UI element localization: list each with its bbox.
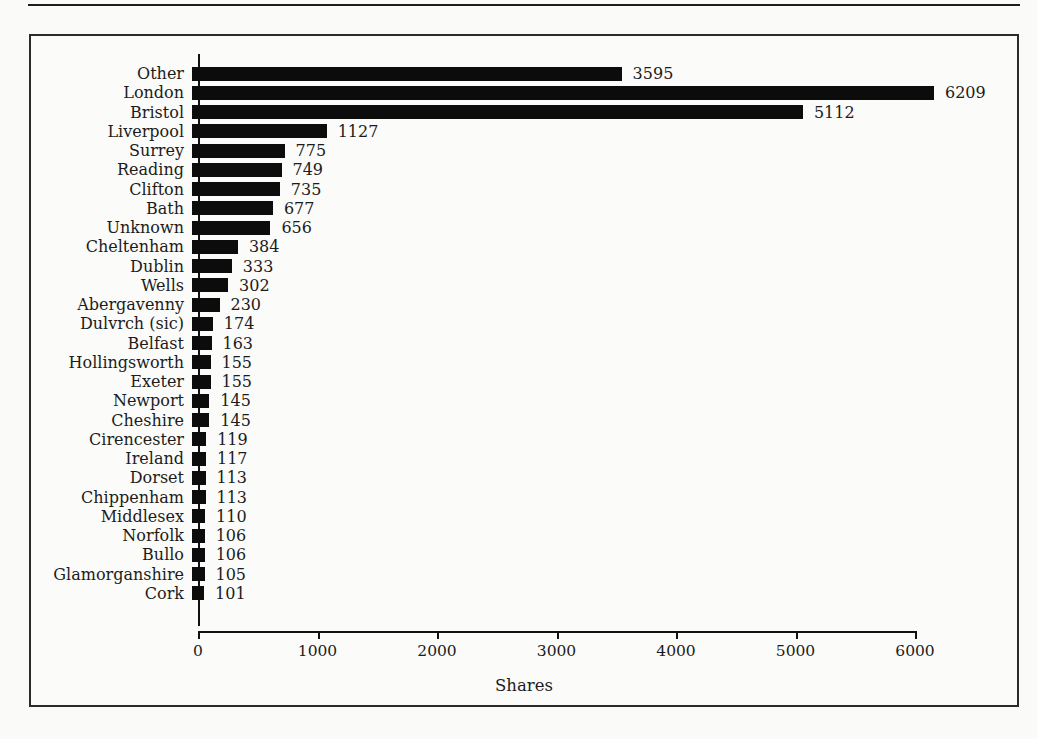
value-label: 101 xyxy=(215,584,246,603)
bar xyxy=(192,105,803,119)
bar xyxy=(192,144,285,158)
category-label: Belfast xyxy=(31,334,192,353)
tick-mark xyxy=(796,631,798,639)
category-label: Dublin xyxy=(31,257,192,276)
category-label: Cheltenham xyxy=(31,237,192,256)
bar-row: Belfast 163 xyxy=(31,334,1017,353)
tick-mark xyxy=(557,631,559,639)
bar xyxy=(192,336,212,350)
bar-row: Newport 145 xyxy=(31,391,1017,410)
bar-row: Cork 101 xyxy=(31,584,1017,603)
value-label: 113 xyxy=(217,488,248,507)
bar-row: Other 3595 xyxy=(31,64,1017,83)
tick-label: 6000 xyxy=(885,642,945,660)
value-label: 749 xyxy=(293,160,324,179)
category-label: Chippenham xyxy=(31,488,192,507)
category-label: Bath xyxy=(31,199,192,218)
bar xyxy=(192,278,228,292)
bar xyxy=(192,548,205,562)
bar-row: Ireland 117 xyxy=(31,449,1017,468)
bar-row: Unknown 656 xyxy=(31,218,1017,237)
bar xyxy=(192,124,327,138)
bar-row: Wells 302 xyxy=(31,276,1017,295)
bar xyxy=(192,221,270,235)
category-label: Wells xyxy=(31,276,192,295)
tick-mark xyxy=(318,631,320,639)
value-label: 735 xyxy=(291,180,322,199)
bar xyxy=(192,452,206,466)
value-label: 384 xyxy=(249,237,280,256)
bar xyxy=(192,86,934,100)
bar-row: Bullo 106 xyxy=(31,545,1017,564)
bar-row: Dublin 333 xyxy=(31,257,1017,276)
bar xyxy=(192,432,206,446)
value-label: 106 xyxy=(216,526,247,545)
bar-row: Abergavenny 230 xyxy=(31,295,1017,314)
value-label: 155 xyxy=(222,372,253,391)
bar xyxy=(192,240,238,254)
bar-row: Exeter 155 xyxy=(31,372,1017,391)
category-label: London xyxy=(31,83,192,102)
category-label: Reading xyxy=(31,160,192,179)
value-label: 113 xyxy=(217,468,248,487)
bar-row: Reading 749 xyxy=(31,160,1017,179)
bar-row: Cirencester 119 xyxy=(31,430,1017,449)
bar-rows-container: Other 3595 London 6209 Bristol 5112 Live… xyxy=(31,64,1017,603)
value-label: 106 xyxy=(216,545,247,564)
bar xyxy=(192,471,206,485)
value-label: 110 xyxy=(216,507,247,526)
value-label: 302 xyxy=(239,276,270,295)
bar xyxy=(192,375,211,389)
value-label: 677 xyxy=(284,199,315,218)
bar-row: Bath 677 xyxy=(31,199,1017,218)
value-label: 145 xyxy=(220,411,251,430)
chart-frame: Other 3595 London 6209 Bristol 5112 Live… xyxy=(29,34,1019,707)
category-label: Cheshire xyxy=(31,411,192,430)
value-label: 333 xyxy=(243,257,274,276)
value-label: 6209 xyxy=(945,83,986,102)
bar xyxy=(192,298,220,312)
bar-row: Surrey 775 xyxy=(31,141,1017,160)
bar-row: Dorset 113 xyxy=(31,468,1017,487)
tick-mark xyxy=(676,631,678,639)
tick-mark xyxy=(915,631,917,639)
value-label: 5112 xyxy=(814,103,855,122)
category-label: Norfolk xyxy=(31,526,192,545)
category-label: Abergavenny xyxy=(31,295,192,314)
category-label: Middlesex xyxy=(31,507,192,526)
category-label: Glamorganshire xyxy=(31,565,192,584)
value-label: 155 xyxy=(222,353,253,372)
value-label: 656 xyxy=(281,218,312,237)
bar xyxy=(192,394,209,408)
bar-row: London 6209 xyxy=(31,83,1017,102)
value-label: 117 xyxy=(217,449,248,468)
category-label: Dorset xyxy=(31,468,192,487)
bar xyxy=(192,413,209,427)
tick-mark xyxy=(198,631,200,639)
bar xyxy=(192,509,205,523)
bar-row: Bristol 5112 xyxy=(31,103,1017,122)
category-label: Liverpool xyxy=(31,122,192,141)
category-label: Other xyxy=(31,64,192,83)
value-label: 105 xyxy=(216,565,247,584)
page: Other 3595 London 6209 Bristol 5112 Live… xyxy=(0,0,1037,739)
bar-row: Liverpool 1127 xyxy=(31,122,1017,141)
page-top-rule xyxy=(28,4,1020,6)
category-label: Newport xyxy=(31,391,192,410)
bar xyxy=(192,201,273,215)
value-label: 3595 xyxy=(633,64,674,83)
bar-row: Hollingsworth 155 xyxy=(31,353,1017,372)
category-label: Cirencester xyxy=(31,430,192,449)
category-label: Clifton xyxy=(31,180,192,199)
tick-label: 5000 xyxy=(766,642,826,660)
bar-row: Dulvrch (sic) 174 xyxy=(31,314,1017,333)
bar xyxy=(192,355,211,369)
category-label: Exeter xyxy=(31,372,192,391)
bar xyxy=(192,490,206,504)
tick-label: 4000 xyxy=(646,642,706,660)
category-label: Hollingsworth xyxy=(31,353,192,372)
bar xyxy=(192,586,204,600)
category-label: Ireland xyxy=(31,449,192,468)
bar xyxy=(192,259,232,273)
bar-row: Middlesex 110 xyxy=(31,507,1017,526)
